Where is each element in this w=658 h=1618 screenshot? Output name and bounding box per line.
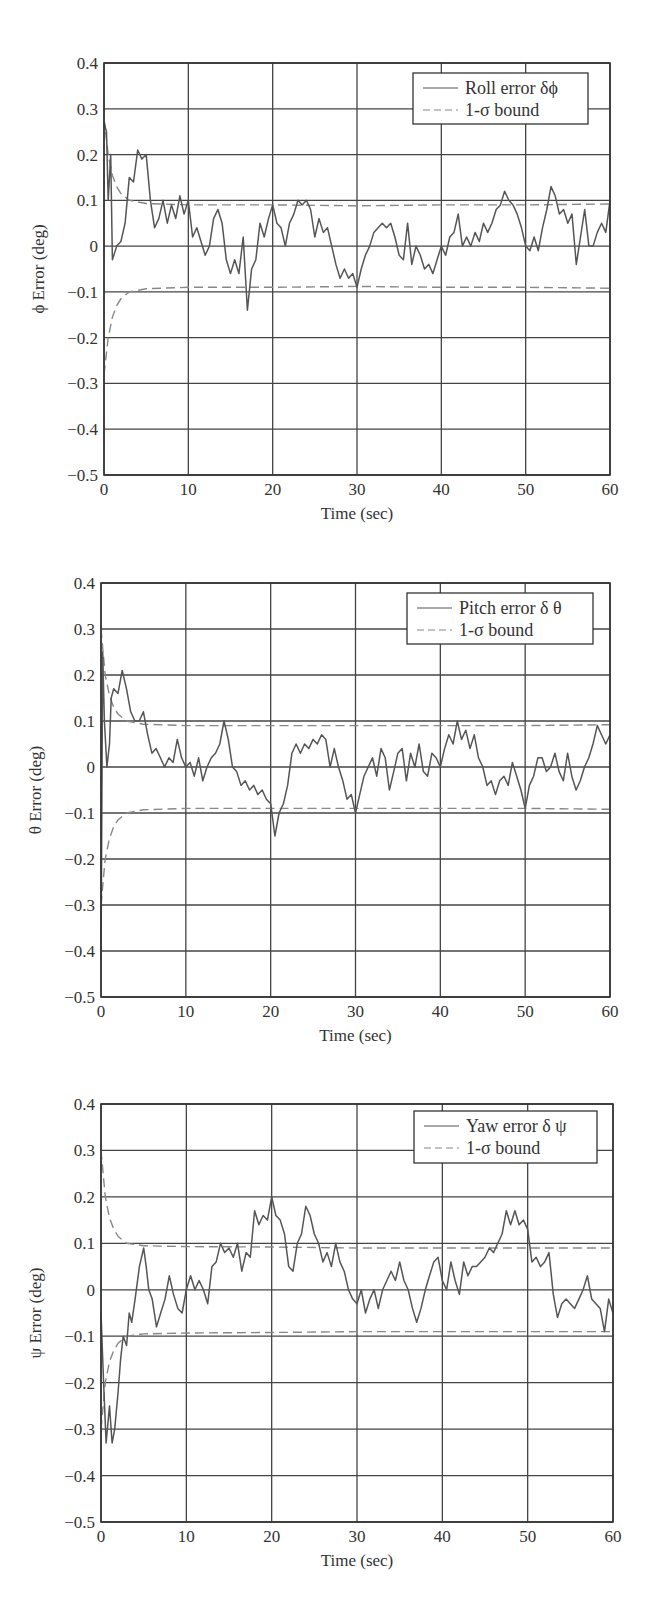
y-axis-label: ϕ Error (deg) (29, 224, 48, 313)
y-tick-label: 0.3 (74, 620, 95, 639)
x-tick-label: 10 (178, 1527, 195, 1546)
x-tick-label: 20 (264, 480, 281, 499)
y-tick-label: 0.1 (74, 712, 95, 731)
x-tick-label: 20 (262, 1002, 279, 1021)
x-tick-label: 10 (177, 1002, 194, 1021)
x-tick-label: 40 (433, 480, 450, 499)
y-tick-label: −0.4 (67, 420, 98, 439)
yaw-error-plot: 0.40.30.20.10−0.1−0.2−0.3−0.4−0.5 010203… (26, 1095, 622, 1570)
figure-canvas: 0.40.30.20.10−0.1−0.2−0.3−0.4−0.5 010203… (0, 0, 658, 1618)
x-tick-label: 0 (100, 480, 109, 499)
legend: Yaw error δ ψ 1-σ bound (414, 1111, 597, 1163)
y-tick-label: −0.5 (64, 1513, 95, 1532)
y-tick-labels: 0.40.30.20.10−0.1−0.2−0.3−0.4−0.5 (67, 54, 98, 485)
y-tick-label: 0 (87, 758, 96, 777)
y-tick-label: 0.4 (77, 54, 99, 73)
y-tick-label: −0.4 (64, 1467, 95, 1486)
y-tick-label: 0.3 (77, 100, 98, 119)
y-tick-label: 0 (87, 1281, 96, 1300)
y-tick-label: −0.3 (67, 374, 98, 393)
x-tick-label: 10 (180, 480, 197, 499)
y-tick-label: −0.2 (64, 1374, 95, 1393)
grid-lines (101, 1104, 613, 1522)
y-axis-label: θ Error (deg) (26, 746, 45, 834)
x-tick-labels: 0102030405060 (97, 1002, 619, 1021)
legend-yaw-error-label: Yaw error δ ψ (466, 1116, 567, 1136)
y-tick-label: −0.5 (67, 466, 98, 485)
y-tick-label: −0.4 (64, 942, 95, 961)
y-tick-label: −0.2 (67, 329, 98, 348)
grid-lines (101, 583, 610, 997)
pitch-error-plot: 0.40.30.20.10−0.1−0.2−0.3−0.4−0.5 010203… (26, 574, 619, 1045)
legend-sigma-bound-label: 1-σ bound (459, 620, 533, 640)
y-tick-label: −0.1 (67, 283, 98, 302)
y-axis-label: ψ Error (deg) (26, 1268, 45, 1359)
y-tick-label: −0.1 (64, 1327, 95, 1346)
y-tick-label: −0.1 (64, 804, 95, 823)
y-tick-labels: 0.40.30.20.10−0.1−0.2−0.3−0.4−0.5 (64, 1095, 95, 1532)
x-tick-label: 60 (602, 480, 619, 499)
y-tick-label: −0.3 (64, 1420, 95, 1439)
x-tick-label: 50 (517, 480, 534, 499)
legend-roll-error-label: Roll error δϕ (465, 78, 558, 98)
y-tick-label: 0.4 (74, 1095, 96, 1114)
y-tick-label: 0.2 (77, 146, 98, 165)
x-tick-labels: 0102030405060 (97, 1527, 622, 1546)
x-tick-labels: 0102030405060 (100, 480, 619, 499)
x-tick-label: 40 (432, 1002, 449, 1021)
y-tick-label: −0.5 (64, 988, 95, 1007)
y-tick-label: 0.1 (77, 191, 98, 210)
grid-lines (104, 63, 610, 475)
x-tick-label: 60 (605, 1527, 622, 1546)
legend-pitch-error-label: Pitch error δ θ (459, 598, 562, 618)
x-tick-label: 30 (349, 480, 366, 499)
y-tick-label: −0.2 (64, 850, 95, 869)
y-tick-label: 0.1 (74, 1234, 95, 1253)
y-tick-label: 0.3 (74, 1141, 95, 1160)
x-axis-label: Time (sec) (319, 1026, 392, 1045)
x-tick-label: 20 (263, 1527, 280, 1546)
x-tick-label: 50 (517, 1002, 534, 1021)
x-axis-label: Time (sec) (321, 504, 394, 523)
y-tick-label: 0.2 (74, 1188, 95, 1207)
x-tick-label: 30 (347, 1002, 364, 1021)
x-tick-label: 0 (97, 1527, 106, 1546)
x-axis-label: Time (sec) (321, 1551, 394, 1570)
x-tick-label: 40 (434, 1527, 451, 1546)
legend: Roll error δϕ 1-σ bound (413, 73, 588, 124)
legend-sigma-bound-label: 1-σ bound (466, 1138, 540, 1158)
legend-sigma-bound-label: 1-σ bound (465, 100, 539, 120)
y-tick-label: 0 (90, 237, 99, 256)
roll-error-plot: 0.40.30.20.10−0.1−0.2−0.3−0.4−0.5 010203… (29, 54, 619, 523)
x-tick-label: 50 (519, 1527, 536, 1546)
x-tick-label: 30 (349, 1527, 366, 1546)
legend: Pitch error δ θ 1-σ bound (407, 593, 593, 644)
x-tick-label: 0 (97, 1002, 106, 1021)
y-tick-label: 0.4 (74, 574, 96, 593)
y-tick-labels: 0.40.30.20.10−0.1−0.2−0.3−0.4−0.5 (64, 574, 95, 1007)
x-tick-label: 60 (602, 1002, 619, 1021)
y-tick-label: −0.3 (64, 896, 95, 915)
y-tick-label: 0.2 (74, 666, 95, 685)
